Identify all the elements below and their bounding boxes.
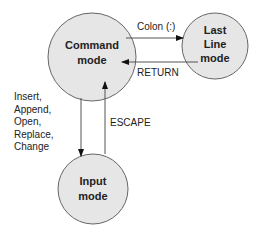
escape-label: ESCAPE [110,116,151,129]
insert-commands-label: Insert, Append, Open, Replace, Change [14,91,53,154]
input-mode-label: Input mode [63,174,123,204]
last-line-mode-label: Last Line mode [185,23,245,65]
colon-label: Colon (:) [137,20,175,33]
command-mode-label: Command mode [52,38,132,68]
return-label: RETURN [137,66,179,79]
